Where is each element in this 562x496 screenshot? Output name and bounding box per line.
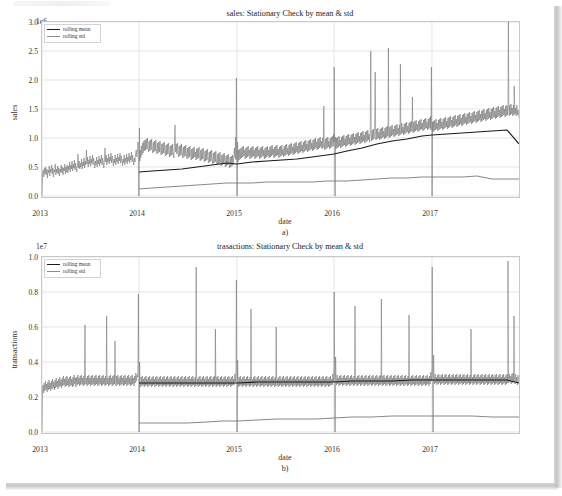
figure-a-ytick-5: 2.5 bbox=[14, 47, 38, 56]
legend-line-swatch-mean bbox=[47, 264, 60, 265]
figure-b-xtick-3: 2016 bbox=[312, 445, 352, 454]
figure-a-title: sales: Stationary Check by mean & std bbox=[60, 9, 520, 18]
figure-b-legend-item-rolling-std: rolling std bbox=[47, 268, 97, 275]
figure-a-legend-item-rolling-mean: rolling mean bbox=[47, 26, 97, 33]
figure-a-ytick-3: 1.5 bbox=[14, 105, 38, 114]
figure-a-plot-area bbox=[41, 21, 520, 198]
figure-b-xtick-0: 2013 bbox=[20, 445, 60, 454]
figure-a-gridlines-horizontal bbox=[42, 22, 519, 196]
page-artifact bbox=[14, 1, 110, 6]
figure-b-ytick-1: 0.2 bbox=[14, 393, 38, 402]
legend-line-swatch-mean bbox=[47, 29, 60, 30]
figure-b-plot-area bbox=[41, 256, 520, 434]
figure-b-xtick-4: 2017 bbox=[410, 445, 450, 454]
figure-b-ytick-0: 0.0 bbox=[14, 428, 38, 437]
figure-b-canvas bbox=[42, 257, 519, 433]
figure-b-x-axis-label: date bbox=[265, 453, 305, 462]
figure-a-ytick-1: 0.5 bbox=[14, 163, 38, 172]
figure-b-ytick-3: 0.6 bbox=[14, 323, 38, 332]
figure-b-xtick-2: 2015 bbox=[214, 445, 254, 454]
figure-a-x-axis-label: date bbox=[265, 217, 305, 226]
figure-b-legend: rolling mean rolling std bbox=[44, 259, 101, 278]
figure-a-canvas bbox=[42, 22, 519, 197]
figure-a-xtick-1: 2014 bbox=[117, 209, 157, 218]
figure-a-legend-item-rolling-std: rolling std bbox=[47, 33, 97, 40]
figure-a-legend-label-1: rolling std bbox=[63, 33, 85, 40]
figure-b-series-rolling-std bbox=[139, 416, 519, 423]
figure-b-legend-label-0: rolling mean bbox=[63, 261, 90, 268]
figure-b-series-original bbox=[42, 261, 519, 432]
figure-b-ytick-5: 1.0 bbox=[14, 253, 38, 262]
figure-b-xtick-1: 2014 bbox=[117, 445, 157, 454]
figure-a-subcaption: a) bbox=[265, 228, 305, 237]
figure-a-ytick-0: 0.0 bbox=[14, 192, 38, 201]
figure-b-legend-item-rolling-mean: rolling mean bbox=[47, 261, 97, 268]
page-canvas: sales: Stationary Check by mean & std 1e… bbox=[0, 0, 549, 485]
figure-a-legend: rolling mean rolling std bbox=[44, 24, 101, 43]
figure-a-ytick-6: 3.0 bbox=[14, 18, 38, 27]
figure-a-xtick-4: 2017 bbox=[410, 209, 450, 218]
figure-b-legend-label-1: rolling std bbox=[63, 268, 85, 275]
figure-b-title: trasactions: Stationary Check by mean & … bbox=[60, 242, 520, 251]
figure-a-xtick-3: 2016 bbox=[312, 209, 352, 218]
figure-a-xtick-2: 2015 bbox=[214, 209, 254, 218]
figure-b-subcaption: b) bbox=[265, 464, 305, 473]
legend-line-swatch-std bbox=[47, 271, 60, 272]
page-bottom-shadow bbox=[6, 483, 558, 490]
document-page: sales: Stationary Check by mean & std 1e… bbox=[0, 0, 562, 496]
figure-a-series-rolling-mean bbox=[139, 130, 519, 172]
figure-a-legend-label-0: rolling mean bbox=[63, 26, 90, 33]
figure-b-gridlines-horizontal bbox=[42, 257, 519, 432]
figure-a-xtick-0: 2013 bbox=[20, 209, 60, 218]
figure-b-y-multiplier: 1e7 bbox=[36, 242, 47, 251]
figure-a-series-rolling-std bbox=[139, 176, 519, 189]
figure-a-ytick-2: 1.0 bbox=[14, 134, 38, 143]
figure-b-ytick-4: 0.8 bbox=[14, 288, 38, 297]
legend-line-swatch-std bbox=[47, 36, 60, 37]
page-right-shadow bbox=[554, 6, 562, 488]
figure-a-ytick-4: 2.0 bbox=[14, 76, 38, 85]
figure-b-ytick-2: 0.4 bbox=[14, 358, 38, 367]
